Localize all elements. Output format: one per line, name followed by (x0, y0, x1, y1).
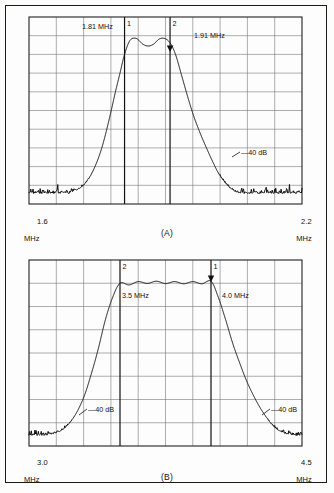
grid-A (29, 17, 302, 204)
figure-panel-b: 23.5 MHz14.0 MHz—40 dB—40 dB 3.0 MHz 4.5… (0, 246, 334, 493)
annotation-leader-line (232, 152, 240, 157)
annotation-label: —40 dB (88, 405, 114, 414)
marker-frequency-label: 1.91 MHz (194, 31, 225, 40)
marker-number-label: 2 (173, 19, 177, 28)
annotation-label: —40 dB (271, 405, 297, 414)
annotation-minus-40db: —40 dB (79, 405, 114, 415)
annotation-minus-40db: —40 dB (262, 405, 297, 415)
annotation-label: —40 dB (241, 148, 267, 157)
spectrum-plot-a: 11.81 MHz21.91 MHz—40 dB (0, 0, 334, 246)
marker-number-label: 1 (214, 262, 218, 271)
marker-frequency-label: 3.5 MHz (122, 291, 149, 300)
plot-area-B: 23.5 MHz14.0 MHz—40 dB—40 dB (29, 260, 302, 446)
figure-page: 11.81 MHz21.91 MHz—40 dB 1.6 MHz 2.2 MHz… (0, 0, 334, 493)
marker-frequency-label: 4.0 MHz (222, 291, 249, 300)
marker-arrow-icon (167, 46, 173, 53)
figure-panel-a: 11.81 MHz21.91 MHz—40 dB 1.6 MHz 2.2 MHz… (0, 0, 334, 246)
plot-area-A: 11.81 MHz21.91 MHz—40 dB (29, 17, 302, 204)
figure-caption-b: (B) (0, 472, 334, 482)
annotation-minus-40db: —40 dB (232, 148, 267, 157)
spectrum-plot-b: 23.5 MHz14.0 MHz—40 dB—40 dB (0, 246, 334, 493)
marker-number-label: 1 (127, 19, 131, 28)
marker-number-label: 2 (123, 262, 127, 271)
marker-frequency-label: 1.81 MHz (82, 22, 113, 31)
grid-B (29, 260, 302, 446)
figure-caption-a: (A) (0, 228, 334, 238)
annotation-leader-line (79, 409, 87, 415)
